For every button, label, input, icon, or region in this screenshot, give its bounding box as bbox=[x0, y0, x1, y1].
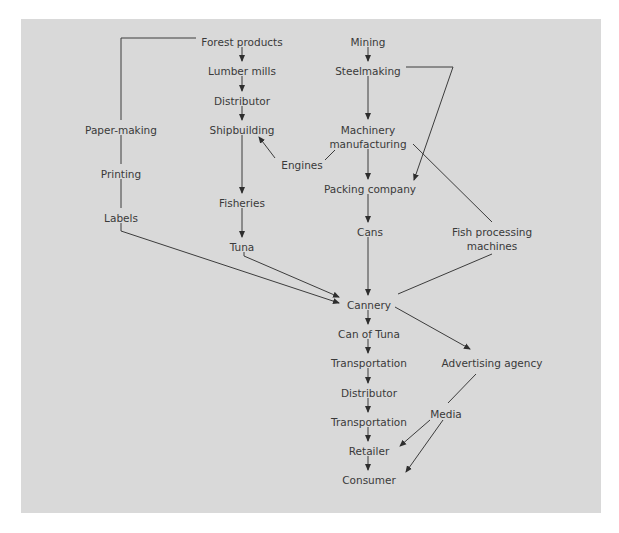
edge-advertising-agency-to-media bbox=[448, 374, 476, 403]
edge-engines-to-shipbuilding bbox=[259, 137, 275, 158]
node-advertising-agency: Advertising agency bbox=[442, 357, 543, 369]
node-distributor-2: Distributor bbox=[341, 387, 398, 399]
node-mining: Mining bbox=[351, 36, 386, 48]
node-retailer: Retailer bbox=[349, 445, 390, 457]
edge-layer bbox=[121, 38, 492, 472]
node-machinery-1: Machinery bbox=[341, 124, 395, 136]
node-transportation-1: Transportation bbox=[330, 357, 407, 369]
edge-tuna-to-cannery bbox=[244, 252, 339, 297]
node-steelmaking: Steelmaking bbox=[335, 65, 401, 77]
supply-chain-diagram: Forest productsLumber millsDistributorSh… bbox=[0, 0, 619, 533]
node-machinery-2: manufacturing bbox=[329, 138, 406, 150]
node-cannery: Cannery bbox=[347, 299, 391, 311]
edge-machinery-manufacturing-to-fish-processing-machines bbox=[413, 144, 492, 222]
node-labels: Labels bbox=[104, 212, 138, 224]
node-fish-machines-2: machines bbox=[467, 240, 518, 252]
node-printing: Printing bbox=[101, 168, 141, 180]
edge-cannery-to-advertising-agency bbox=[395, 307, 470, 349]
node-fisheries: Fisheries bbox=[219, 197, 265, 209]
node-cans: Cans bbox=[357, 226, 383, 238]
node-transportation-2: Transportation bbox=[330, 416, 407, 428]
edge-labels-to-cannery bbox=[121, 223, 339, 303]
node-distributor-1: Distributor bbox=[214, 95, 271, 107]
edge-fish-processing-machines-to-cannery bbox=[398, 254, 492, 294]
node-paper-making: Paper-making bbox=[85, 124, 157, 136]
node-consumer: Consumer bbox=[342, 474, 396, 486]
node-fish-machines-1: Fish processing bbox=[452, 226, 532, 238]
node-can-of-tuna: Can of Tuna bbox=[338, 328, 400, 340]
node-packing-company: Packing company bbox=[324, 183, 416, 195]
edge-steelmaking-to-packing-company bbox=[406, 67, 453, 180]
node-shipbuilding: Shipbuilding bbox=[210, 124, 275, 136]
node-layer: Forest productsLumber millsDistributorSh… bbox=[85, 36, 542, 486]
node-forest-products: Forest products bbox=[201, 36, 282, 48]
edge-machinery-manufacturing-to-engines bbox=[325, 150, 335, 160]
node-lumber-mills: Lumber mills bbox=[208, 65, 276, 77]
edge-forest-products-to-paper-making bbox=[121, 38, 196, 120]
node-media: Media bbox=[430, 408, 462, 420]
node-engines: Engines bbox=[281, 159, 322, 171]
node-tuna: Tuna bbox=[229, 241, 255, 253]
edge-media-to-consumer bbox=[406, 420, 443, 472]
